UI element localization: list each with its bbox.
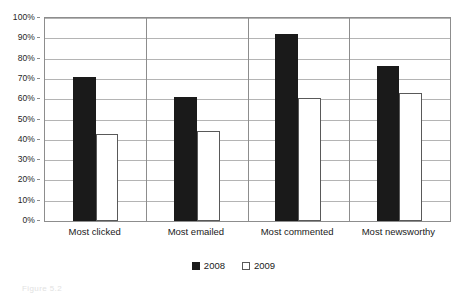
category-separator (146, 18, 147, 221)
y-tick-mark (37, 179, 40, 180)
legend-swatch-icon (242, 262, 250, 270)
x-axis: Most clickedMost emailedMost commentedMo… (44, 226, 451, 242)
y-tick-label: 30% (18, 155, 35, 164)
y-tick-mark (37, 98, 40, 99)
y-tick-mark (37, 200, 40, 201)
y-axis: 0%10%20%30%40%50%60%70%80%90%100% (0, 17, 40, 222)
y-tick-label: 80% (18, 53, 35, 62)
y-tick-label: 90% (18, 33, 35, 42)
x-tick-label: Most commented (261, 226, 334, 238)
category-separator (349, 18, 350, 221)
bar-2008-most-emailed (174, 97, 197, 221)
legend-item-2009: 2009 (242, 261, 275, 271)
y-tick-label: 60% (18, 94, 35, 103)
y-tick-mark (37, 119, 40, 120)
bar-2009-most-newsworthy (399, 93, 422, 221)
y-tick-mark (37, 58, 40, 59)
y-tick-label: 50% (18, 114, 35, 123)
y-tick-mark (37, 220, 40, 221)
y-tick-mark (37, 159, 40, 160)
x-tick-label: Most clicked (68, 226, 120, 238)
legend-label: 2009 (254, 261, 275, 271)
y-tick-mark (37, 139, 40, 140)
y-tick-mark (37, 78, 40, 79)
bar-2008-most-newsworthy (377, 66, 400, 221)
legend-item-2008: 2008 (192, 261, 225, 271)
category-separator (248, 18, 249, 221)
bar-2008-most-commented (275, 34, 298, 221)
legend-swatch-icon (192, 262, 200, 270)
y-tick-label: 70% (18, 73, 35, 82)
y-tick-label: 40% (18, 134, 35, 143)
caption-remnant: Figure 5.2 (22, 284, 62, 293)
plot-area (44, 17, 451, 222)
bar-2009-most-commented (298, 98, 321, 221)
x-tick-label: Most newsworthy (362, 226, 435, 238)
bar-2008-most-clicked (73, 77, 96, 221)
bar-2009-most-clicked (96, 134, 119, 221)
bar-chart-figure: 0%10%20%30%40%50%60%70%80%90%100% Most c… (0, 0, 467, 297)
y-tick-mark (37, 17, 40, 18)
y-tick-label: 0% (23, 216, 36, 225)
y-tick-label: 100% (13, 13, 35, 22)
gridline (45, 221, 450, 222)
y-tick-label: 20% (18, 175, 35, 184)
chart-legend: 20082009 (0, 258, 467, 274)
y-tick-label: 10% (18, 195, 35, 204)
x-tick-label: Most emailed (168, 226, 225, 238)
y-tick-mark (37, 37, 40, 38)
legend-label: 2008 (204, 261, 225, 271)
bar-2009-most-emailed (197, 131, 220, 221)
